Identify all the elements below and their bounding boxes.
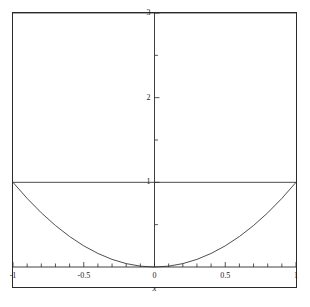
x-tick-label: -0.5 [77, 272, 90, 280]
y-tick-label: 3 [131, 9, 151, 17]
x-tick-label: -1 [10, 272, 17, 280]
y-tick-label: 2 [131, 94, 151, 102]
x-tick-label: 1 [294, 272, 298, 280]
y-tick-label: 1 [131, 178, 151, 186]
plot-figure: -1-0.500.51123x [0, 0, 310, 307]
x-axis-title: x [153, 284, 157, 293]
plot-canvas [13, 13, 296, 287]
x-tick-label: 0 [153, 272, 157, 280]
plot-frame: -1-0.500.51123x [12, 12, 297, 288]
x-tick-label: 0.5 [220, 272, 230, 280]
